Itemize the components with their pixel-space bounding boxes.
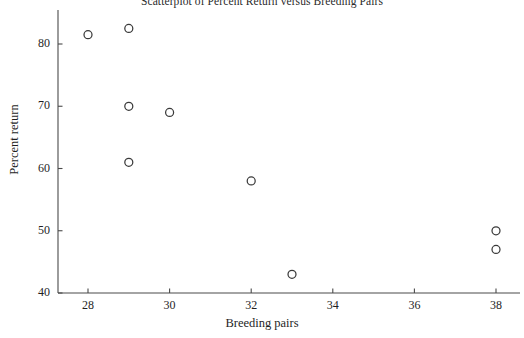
y-tick-label: 80 [22, 36, 50, 51]
data-point-marker [166, 108, 174, 116]
y-axis-title: Percent return [7, 80, 22, 200]
plot-area [0, 0, 524, 338]
data-point-marker [125, 102, 133, 110]
x-tick-label: 38 [476, 298, 516, 313]
scatterplot-figure: Scatterplot of Percent Return versus Bre… [0, 0, 524, 338]
x-tick-label: 36 [394, 298, 434, 313]
y-tick-label: 60 [22, 161, 50, 176]
x-tick-label: 28 [68, 298, 108, 313]
x-axis-title: Breeding pairs [0, 316, 524, 331]
data-point-marker [84, 31, 92, 39]
data-point-marker [125, 24, 133, 32]
data-point-marker [288, 270, 296, 278]
data-point-marker [492, 227, 500, 235]
y-tick-label: 70 [22, 98, 50, 113]
y-tick-label: 50 [22, 223, 50, 238]
x-tick-label: 34 [313, 298, 353, 313]
x-tick-label: 30 [150, 298, 190, 313]
data-point-marker [247, 177, 255, 185]
data-point-marker [492, 245, 500, 253]
y-tick-label: 40 [22, 285, 50, 300]
data-point-marker [125, 158, 133, 166]
x-tick-label: 32 [231, 298, 271, 313]
